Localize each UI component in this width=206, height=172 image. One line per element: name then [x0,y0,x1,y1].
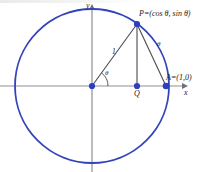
point-P [134,21,140,27]
arc-theta-label: θ [157,41,160,48]
unit-circle-figure: y x P=(cos θ, sin θ) A=(1,0) Q θ θ 1 [0,0,206,172]
point-origin [89,83,95,89]
y-axis-label: y [86,2,90,10]
point-P-label: P=(cos θ, sin θ) [139,10,190,18]
point-A [163,83,170,90]
diagram-canvas [0,0,206,172]
point-A-label: A=(1,0) [166,74,192,82]
angle-theta-origin-label: θ [105,70,108,77]
radius-length-label: 1 [112,48,116,56]
point-Q-label: Q [134,90,140,98]
x-axis-label: x [184,89,188,97]
